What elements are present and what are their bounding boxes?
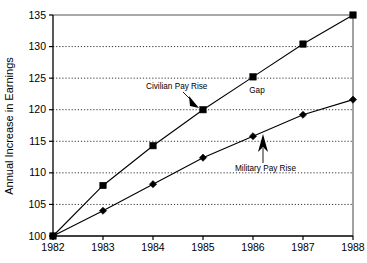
line-chart: 100105110115120125130135 198219831984198… [0,0,367,263]
y-tick-label: 105 [28,198,46,210]
x-tick-label: 1988 [341,241,365,253]
y-tick-label: 120 [28,103,46,115]
data-point-marker [200,107,206,113]
annotation-military-pay-rise: Military Pay Rise [235,164,296,173]
data-point-marker [100,182,106,188]
y-tick-label: 100 [28,230,46,242]
chart-container: 100105110115120125130135 198219831984198… [0,0,367,263]
x-tick-label: 1987 [291,241,315,253]
data-point-marker [150,143,156,149]
annotation-gap: Gap [249,86,265,95]
data-point-marker [300,41,306,47]
x-tick-label: 1983 [91,241,115,253]
x-tick-label: 1986 [241,241,265,253]
x-tick-label: 1982 [41,241,65,253]
y-tick-label: 110 [29,166,46,178]
annotation-civilian-pay-rise: Civilian Pay Rise [146,82,208,91]
data-point-marker [350,12,356,18]
y-tick-label: 125 [28,72,46,84]
y-tick-label: 115 [29,135,46,147]
x-tick-label: 1985 [191,241,215,253]
y-tick-label: 135 [28,9,46,21]
y-tick-label: 130 [28,40,46,52]
y-axis-title: Annual Increase in Earnings [3,57,15,195]
data-point-marker [250,74,256,80]
x-tick-label: 1984 [141,241,165,253]
